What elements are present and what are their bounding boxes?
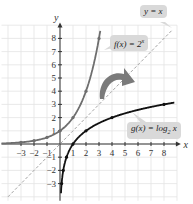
label-g: g(x) = log2 x — [127, 122, 181, 139]
x-tick-label: 1 — [71, 148, 76, 158]
point-g — [110, 116, 113, 119]
y-tick-label: 8 — [52, 33, 57, 43]
x-axis-label: x — [183, 139, 189, 150]
y-tick-label: −3 — [46, 179, 56, 189]
y-axis-label: y — [53, 12, 59, 23]
point-g — [60, 182, 63, 185]
x-tick-label: 8 — [162, 148, 167, 158]
line-y-equals-x — [8, 30, 172, 196]
point-f — [71, 116, 74, 119]
point-g — [65, 156, 68, 159]
y-tick-label: 2 — [52, 113, 57, 123]
label-pointer — [132, 112, 146, 122]
label-f-text: f(x) = 2 — [114, 39, 142, 49]
x-tick-label: −2 — [29, 148, 39, 158]
y-tick-label: 5 — [52, 73, 57, 83]
point-f — [45, 136, 48, 139]
label-y-equals-x: y = x — [140, 5, 167, 18]
label-f: f(x) = 2x — [110, 35, 148, 51]
reflection-arrow-icon — [100, 68, 135, 99]
x-tick-label: 4 — [110, 148, 115, 158]
x-tick-label: 5 — [123, 148, 128, 158]
x-tick-label: −3 — [16, 148, 26, 158]
point-g — [162, 103, 165, 106]
label-g-tail: x — [171, 123, 177, 133]
point-g — [62, 169, 65, 172]
label-g-text: g(x) = log — [131, 123, 168, 133]
x-tick-label: 2 — [84, 148, 89, 158]
point-g — [71, 142, 74, 145]
x-tick-label: 3 — [97, 148, 102, 158]
point-f — [58, 129, 61, 132]
point-f — [97, 37, 100, 40]
curve-g — [61, 103, 174, 194]
x-axis-arrow — [176, 142, 181, 147]
y-tick-label: 6 — [52, 60, 57, 70]
point-f — [32, 139, 35, 142]
graph: xy−3−2−112345678−3−2−112345678 — [0, 0, 193, 204]
y-tick-label: 3 — [52, 99, 57, 109]
y-tick-label: −1 — [46, 152, 56, 162]
point-f — [19, 141, 22, 144]
label-f-exp: x — [142, 38, 145, 44]
y-tick-label: 7 — [52, 47, 57, 57]
y-tick-label: −2 — [46, 165, 56, 175]
point-f — [84, 90, 87, 93]
x-tick-label: 6 — [136, 148, 141, 158]
point-g — [84, 129, 87, 132]
y-tick-label: 4 — [52, 86, 57, 96]
x-tick-label: 7 — [149, 148, 154, 158]
